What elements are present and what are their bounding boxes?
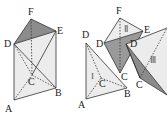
label-F: F (28, 6, 34, 17)
label-B: B (55, 87, 62, 98)
label-E: E (57, 25, 63, 36)
piece-III-label-D: D (130, 38, 137, 49)
piece-I-numeral: I (91, 71, 94, 81)
piece-I-label-B: B (124, 88, 131, 99)
label-C: C (28, 76, 35, 87)
left-prism (14, 19, 56, 100)
piece-I-label-C: C (99, 78, 106, 89)
piece-III-numeral: Ⅲ (150, 55, 156, 65)
figure-canvas: F E D C B A D C B A I F E D C Ⅱ D C (0, 0, 167, 119)
piece-I-label-D: D (82, 29, 89, 40)
piece-II-label-C: C (121, 71, 128, 82)
piece-II-label-D: D (96, 38, 103, 49)
piece-III-label-C: C (136, 79, 143, 90)
prism-dissection-figure: F E D C B A D C B A I F E D C Ⅱ D C (0, 0, 167, 119)
piece-II-label-F: F (116, 5, 122, 16)
piece-II-numeral: Ⅱ (124, 24, 128, 34)
piece-I-label-A: A (78, 99, 86, 110)
label-A: A (5, 103, 13, 114)
piece-II-label-E: E (144, 24, 150, 35)
label-D: D (4, 38, 11, 49)
